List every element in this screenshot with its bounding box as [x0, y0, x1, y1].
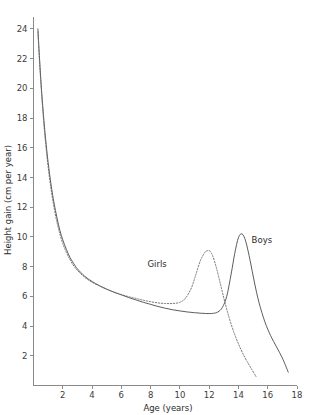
x-tick-label: 6: [119, 390, 124, 400]
y-tick-label: 16: [17, 143, 28, 153]
y-tick-label: 10: [17, 232, 28, 242]
y-tick-label: 18: [17, 113, 28, 123]
y-tick-label: 6: [22, 291, 27, 301]
series-curve-girls: [38, 32, 256, 377]
y-tick-label: 8: [22, 262, 27, 272]
x-tick-label: 14: [233, 390, 244, 400]
x-tick-label: 18: [292, 390, 303, 400]
x-tick-label: 10: [174, 390, 185, 400]
series-label-boys: Boys: [252, 235, 273, 245]
x-axis-title: Age (years): [143, 403, 192, 413]
y-tick-label: 22: [17, 54, 28, 64]
axes: 2468101214161820222424681012141618: [17, 17, 303, 400]
y-tick-label: 24: [17, 24, 28, 34]
series-curve-boys: [38, 29, 288, 372]
x-tick-label: 4: [89, 390, 94, 400]
x-tick-label: 8: [148, 390, 153, 400]
y-tick-label: 2: [22, 351, 27, 361]
y-tick-label: 12: [17, 202, 28, 212]
x-tick-label: 16: [262, 390, 273, 400]
y-tick-label: 20: [17, 83, 28, 93]
growth-velocity-chart: 2468101214161820222424681012141618 BoysG…: [0, 0, 311, 415]
y-tick-label: 4: [22, 321, 27, 331]
chart-canvas: 2468101214161820222424681012141618 BoysG…: [0, 0, 311, 415]
series-annotations: BoysGirls: [147, 235, 272, 270]
y-axis-title: Height gain (cm per year): [3, 145, 13, 255]
data-series: [38, 29, 288, 377]
x-tick-label: 12: [204, 390, 215, 400]
series-label-girls: Girls: [147, 259, 167, 269]
y-tick-label: 14: [17, 173, 28, 183]
x-tick-label: 2: [60, 390, 65, 400]
